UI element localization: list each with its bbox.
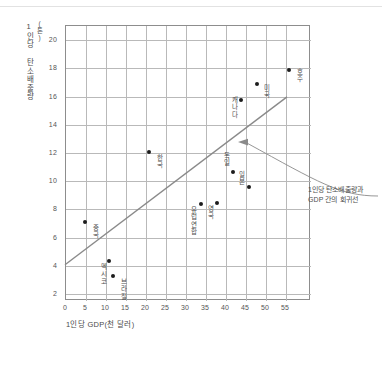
data-point-label: 일본	[237, 171, 245, 186]
data-point-label: 브라질	[119, 278, 127, 300]
data-point-label: 미국	[262, 84, 270, 99]
data-point-label: 호주	[295, 68, 303, 83]
data-point-label: 중국	[91, 224, 99, 239]
data-point-label: 독일	[222, 152, 230, 167]
data-point-label: 캐나다	[230, 96, 238, 118]
regression-line	[0, 0, 382, 366]
data-point-label: 유럽연합	[189, 206, 197, 236]
data-point	[147, 150, 151, 154]
scatter-chart: 1인당 탄소배출량 (톤) 1인당 GDP(천 달러) 246810121416…	[0, 0, 382, 366]
data-point	[83, 220, 87, 224]
data-point	[215, 201, 219, 205]
data-point	[247, 185, 251, 189]
data-point	[231, 170, 235, 174]
data-point	[255, 82, 259, 86]
data-point-label: 멕시코	[99, 263, 107, 285]
data-point	[287, 68, 291, 72]
data-point	[199, 202, 203, 206]
data-point	[107, 259, 111, 263]
callout-line-2: GDP 간의 회귀선	[308, 195, 382, 205]
regression-line-callout: 1인당 탄소배출량과 GDP 간의 회귀선	[308, 185, 382, 205]
data-point	[111, 274, 115, 278]
data-point	[239, 98, 243, 102]
callout-line-1: 1인당 탄소배출량과	[308, 185, 382, 195]
data-point-label: 한국	[155, 154, 163, 169]
data-point-label: 영국	[206, 205, 214, 220]
